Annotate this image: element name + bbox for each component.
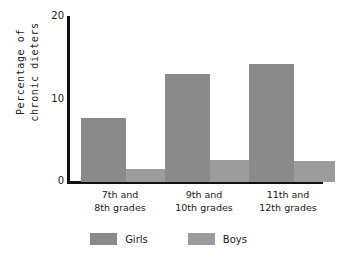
legend-label-boys: Boys — [223, 234, 247, 245]
x-axis-label-3-line-1: 11th and — [245, 188, 331, 201]
legend-swatch-girls-icon — [90, 233, 117, 245]
legend-item-girls: Girls — [90, 233, 148, 245]
x-axis-label-2-line-1: 9th and — [161, 188, 247, 201]
plot-area — [69, 16, 321, 182]
y-tick-label-20: 20 — [38, 10, 64, 21]
bar-girls-group-2 — [165, 74, 210, 182]
bar-boys-group-1 — [126, 169, 167, 182]
legend-swatch-boys-icon — [188, 233, 215, 245]
x-axis-label-2-line-2: 10th grades — [161, 201, 247, 214]
y-tick-label-0: 0 — [38, 175, 64, 186]
y-axis-title-line-1: Percentage of — [14, 29, 28, 115]
legend-item-boys: Boys — [188, 233, 247, 245]
x-axis-label-3: 11th and 12th grades — [245, 188, 331, 214]
legend-label-girls: Girls — [125, 234, 148, 245]
bar-girls-group-3 — [249, 64, 294, 182]
x-axis-labels: 7th and 8th grades 9th and 10th grades 1… — [69, 188, 323, 220]
x-axis-label-1-line-1: 7th and — [77, 188, 163, 201]
chart-legend: Girls Boys — [0, 228, 337, 250]
x-axis-label-3-line-2: 12th grades — [245, 201, 331, 214]
y-axis-ticks: 20 10 0 — [36, 0, 64, 190]
x-axis-label-1-line-2: 8th grades — [77, 201, 163, 214]
bar-boys-group-2 — [210, 160, 251, 182]
bar-group-3 — [249, 16, 335, 182]
bar-chart: Percentage of chronic dieters 20 10 0 7t… — [0, 0, 337, 262]
bar-group-1 — [81, 16, 167, 182]
bar-group-2 — [165, 16, 251, 182]
bar-boys-group-3 — [294, 161, 335, 182]
x-axis-label-1: 7th and 8th grades — [77, 188, 163, 214]
y-tick-label-10: 10 — [38, 93, 64, 104]
bar-girls-group-1 — [81, 118, 126, 182]
x-axis-label-2: 9th and 10th grades — [161, 188, 247, 214]
